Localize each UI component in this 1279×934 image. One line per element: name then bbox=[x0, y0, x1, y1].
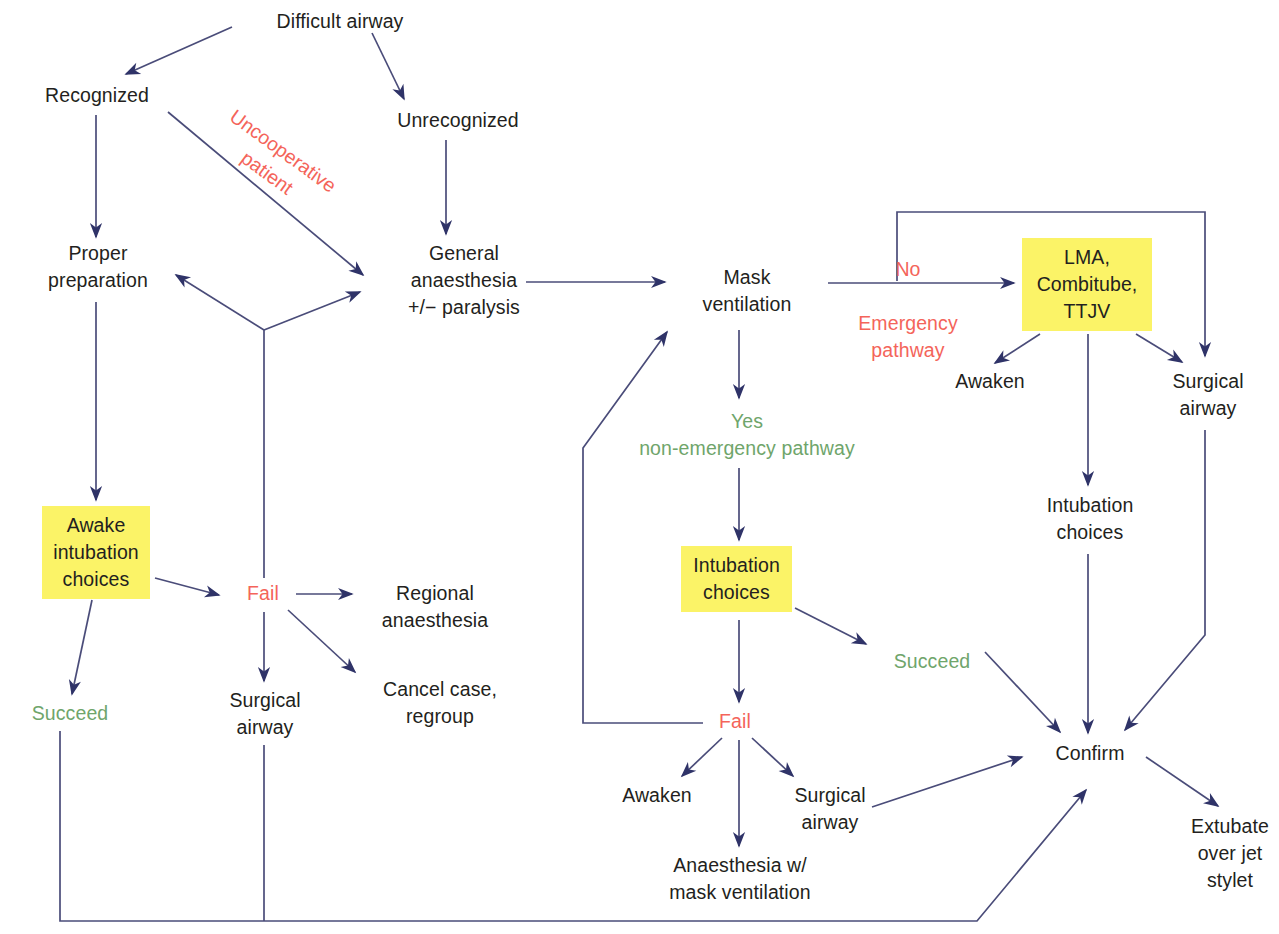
node-awake-intubation-choices: Awake intubation choices bbox=[42, 506, 150, 599]
edge-lma-to-surgical-right bbox=[1136, 334, 1182, 362]
edge-junction-to-proper-prep bbox=[176, 275, 264, 330]
edge-lma-to-awaken bbox=[995, 334, 1040, 363]
node-cancel-case-regroup: Cancel case, regroup bbox=[360, 676, 520, 730]
node-intubation-choices-center: Intubation choices bbox=[681, 546, 792, 612]
node-difficult-airway: Difficult airway bbox=[240, 8, 440, 35]
node-anaesthesia-with-mask-ventilation: Anaesthesia w/ mask ventilation bbox=[640, 852, 840, 906]
edge-fail-to-cancel-case bbox=[288, 610, 355, 672]
node-unrecognized: Unrecognized bbox=[378, 107, 538, 134]
edge-surgical-center-to-confirm bbox=[872, 757, 1022, 807]
node-general-anaesthesia: General anaesthesia +/− paralysis bbox=[388, 240, 540, 321]
edge-succeed-left-to-confirm bbox=[60, 731, 1086, 921]
node-succeed-center: Succeed bbox=[872, 648, 992, 675]
edge-junction-to-general-anaesthesia bbox=[264, 292, 360, 330]
node-surgical-airway-center: Surgical airway bbox=[775, 782, 885, 836]
node-confirm: Confirm bbox=[1030, 740, 1150, 767]
node-surgical-airway-right: Surgical airway bbox=[1148, 368, 1268, 422]
node-succeed-left: Succeed bbox=[10, 700, 130, 727]
node-awaken-center: Awaken bbox=[597, 782, 717, 809]
edge-intubation-center-to-succeed bbox=[795, 608, 866, 644]
edge-confirm-to-extubate bbox=[1146, 757, 1218, 806]
node-regional-anaesthesia: Regional anaesthesia bbox=[360, 580, 510, 634]
node-yes-non-emergency-pathway: Yes non-emergency pathway bbox=[597, 408, 897, 462]
node-mask-ventilation: Mask ventilation bbox=[672, 264, 822, 318]
edge-difficult-to-unrecognized bbox=[372, 33, 404, 99]
node-extubate-over-jet-stylet: Extubate over jet stylet bbox=[1180, 813, 1279, 894]
edge-awake-to-succeed bbox=[72, 600, 92, 694]
node-fail-left: Fail bbox=[228, 580, 298, 607]
node-no-emergency-pathway: No Emergency pathway bbox=[828, 256, 988, 364]
node-intubation-choices-right: Intubation choices bbox=[1020, 492, 1160, 546]
edge-difficult-to-recognized bbox=[126, 27, 232, 74]
edge-succeed-center-to-confirm bbox=[985, 652, 1060, 732]
edge-awake-to-fail bbox=[155, 578, 219, 595]
node-recognized: Recognized bbox=[22, 82, 172, 109]
difficult-airway-flowchart: Difficult airway Recognized Unrecognized… bbox=[0, 0, 1279, 934]
edge-label-uncooperative-patient: Uncooperative patient bbox=[190, 90, 359, 234]
node-lma-combitube-ttjv: LMA, Combitube, TTJV bbox=[1022, 238, 1152, 331]
node-fail-center: Fail bbox=[700, 708, 770, 735]
edge-fail-center-to-surgical bbox=[752, 738, 793, 776]
node-awaken-right: Awaken bbox=[930, 368, 1050, 395]
node-surgical-airway-left: Surgical airway bbox=[205, 687, 325, 741]
edge-surgical-right-to-confirm bbox=[1125, 430, 1205, 730]
edge-fail-center-loop-to-mask bbox=[583, 332, 703, 723]
node-proper-preparation: Proper preparation bbox=[28, 240, 168, 294]
edge-fail-center-to-awaken bbox=[682, 738, 722, 776]
